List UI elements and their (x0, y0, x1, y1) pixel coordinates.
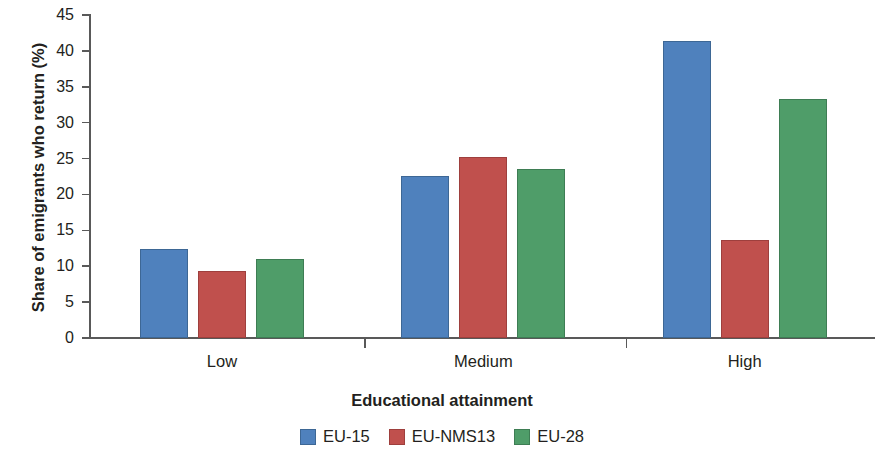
bar-chart-figure: Share of emigrants who return (%) 051015… (0, 0, 884, 458)
y-axis-tick (82, 86, 90, 88)
chart-legend: EU-15EU-NMS13EU-28 (0, 427, 884, 446)
bar-medium-eu-28 (517, 169, 565, 338)
y-axis-tick (82, 158, 90, 160)
x-axis-separator-tick (364, 339, 366, 348)
y-axis-tick (82, 194, 90, 196)
y-axis-tick-label: 15 (12, 221, 74, 239)
bar-medium-eu-nms13 (459, 157, 507, 338)
bar-high-eu-15 (663, 41, 711, 338)
y-axis-tick (82, 50, 90, 52)
legend-item-eu-nms13[interactable]: EU-NMS13 (389, 427, 495, 446)
legend-color-swatch (514, 429, 530, 445)
y-axis-tick-label: 5 (12, 293, 74, 311)
plot-bars (90, 15, 874, 338)
y-axis-tick-label: 0 (12, 329, 74, 347)
y-axis-tick-label: 45 (12, 6, 74, 24)
y-axis-tick-label: 40 (12, 42, 74, 60)
bar-low-eu-nms13 (198, 271, 246, 338)
y-axis-tick-label: 10 (12, 257, 74, 275)
legend-item-eu-28[interactable]: EU-28 (514, 427, 584, 446)
legend-color-swatch (300, 429, 316, 445)
y-axis-tick (82, 122, 90, 124)
y-axis-tick (82, 14, 90, 16)
legend-color-swatch (389, 429, 405, 445)
y-axis-tick-label: 30 (12, 114, 74, 132)
y-axis-tick (82, 301, 90, 303)
bar-high-eu-28 (779, 99, 827, 338)
y-axis-tick-label: 25 (12, 150, 74, 168)
x-axis-title: Educational attainment (0, 391, 884, 410)
y-axis-tick (82, 337, 90, 339)
legend-item-eu-15[interactable]: EU-15 (300, 427, 370, 446)
bar-low-eu-28 (256, 259, 304, 338)
bar-high-eu-nms13 (721, 240, 769, 338)
x-axis-category-label: High (728, 352, 762, 371)
legend-label: EU-NMS13 (412, 427, 495, 446)
legend-label: EU-28 (537, 427, 584, 446)
x-axis-category-label: Low (207, 352, 237, 371)
bar-low-eu-15 (140, 249, 188, 338)
bar-medium-eu-15 (401, 176, 449, 338)
legend-label: EU-15 (323, 427, 370, 446)
y-axis-tick-label: 20 (12, 185, 74, 203)
x-axis-category-label: Medium (454, 352, 513, 371)
x-axis-separator-tick (626, 339, 628, 348)
y-axis-tick-label: 35 (12, 78, 74, 96)
y-axis-tick (82, 230, 90, 232)
y-axis-tick (82, 265, 90, 267)
